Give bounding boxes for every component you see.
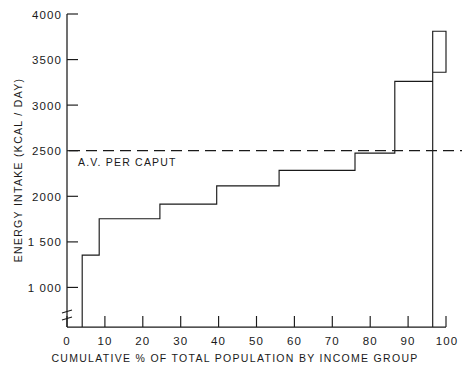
x-tick-marks	[67, 316, 446, 327]
x-tick-label-90: 90	[401, 335, 416, 347]
y-tick-label-3000: 3000	[32, 100, 62, 112]
y-tick-label-2500: 2500	[32, 145, 62, 157]
y-tick-label-1500: 1 500	[28, 236, 62, 248]
x-tick-label-20: 20	[135, 335, 150, 347]
y-tick-label-3500: 3500	[32, 54, 62, 66]
x-tick-label-70: 70	[325, 335, 340, 347]
x-tick-label-10: 10	[97, 335, 112, 347]
bar-step-outline	[82, 31, 446, 327]
y-tick-label-2000: 2000	[32, 191, 62, 203]
x-tick-label-0: 0	[63, 335, 71, 347]
chart-container: 4000 3500 3000 2500 2000 1 500 1 000 0 1…	[0, 0, 469, 373]
x-axis-title: CUMULATIVE % OF TOTAL POPULATION BY INCO…	[51, 352, 418, 364]
y-tick-label-4000: 4000	[32, 9, 62, 21]
energy-intake-bar-chart: 4000 3500 3000 2500 2000 1 500 1 000 0 1…	[0, 0, 469, 373]
x-tick-label-30: 30	[173, 335, 188, 347]
y-axis-title: ENERGY INTAKE (KCAL / DAY)	[12, 78, 24, 263]
av-per-caput-label: A.V. PER CAPUT	[78, 156, 177, 168]
x-tick-label-80: 80	[363, 335, 378, 347]
bar-series	[82, 31, 446, 327]
x-tick-label-50: 50	[249, 335, 264, 347]
x-tick-label-100: 100	[436, 335, 459, 347]
x-tick-label-60: 60	[287, 335, 302, 347]
y-tick-label-1000: 1 000	[28, 282, 62, 294]
x-tick-label-40: 40	[211, 335, 226, 347]
